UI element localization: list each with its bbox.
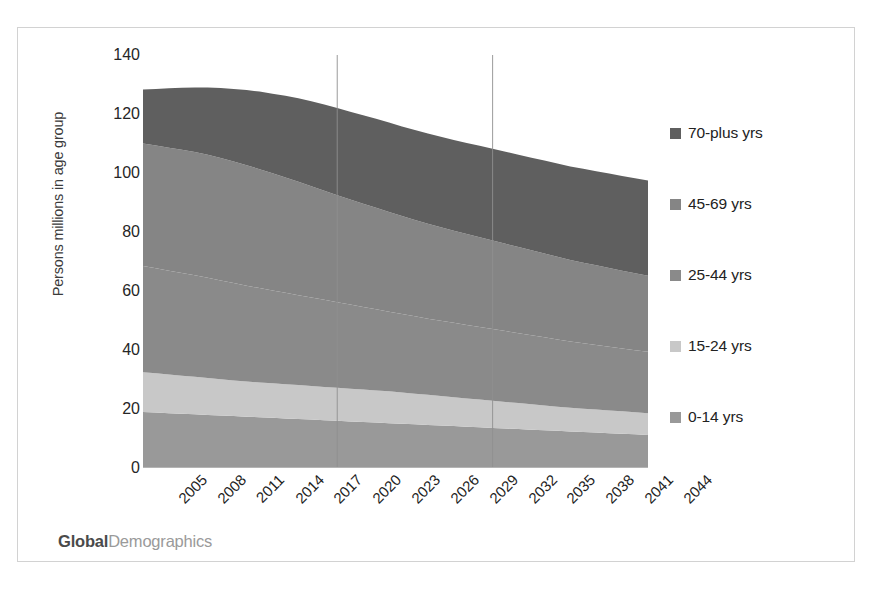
x-axis-tick: 2026 bbox=[447, 471, 483, 507]
y-axis-tick-labels: 020406080100120140 bbox=[78, 28, 140, 563]
legend-label: 25-44 yrs bbox=[688, 266, 752, 284]
legend-label: 70-plus yrs bbox=[688, 124, 763, 142]
x-axis-tick: 2023 bbox=[408, 471, 444, 507]
x-axis-tick: 2035 bbox=[563, 471, 599, 507]
y-axis-tick: 140 bbox=[113, 47, 140, 63]
y-axis-tick: 120 bbox=[113, 106, 140, 122]
x-axis-tick: 2020 bbox=[369, 471, 405, 507]
brand-primary: Global bbox=[58, 532, 108, 550]
x-axis-tick: 2044 bbox=[680, 471, 716, 507]
x-axis-tick-labels: 2005200820112014201720202023202620292032… bbox=[143, 471, 663, 551]
legend-label: 45-69 yrs bbox=[688, 195, 752, 213]
x-axis-tick: 2011 bbox=[252, 471, 287, 506]
x-axis-tick: 2041 bbox=[641, 471, 677, 507]
brand-watermark: GlobalDemographics bbox=[58, 532, 212, 551]
legend-item[interactable]: 25-44 yrs bbox=[670, 266, 752, 284]
legend-swatch-icon bbox=[670, 341, 681, 352]
legend-item[interactable]: 15-24 yrs bbox=[670, 337, 752, 355]
brand-secondary: Demographics bbox=[108, 532, 212, 550]
legend-swatch-icon bbox=[670, 270, 681, 281]
legend-item[interactable]: 45-69 yrs bbox=[670, 195, 752, 213]
y-axis-tick: 80 bbox=[122, 224, 140, 240]
x-axis-tick: 2032 bbox=[524, 471, 560, 507]
y-axis-title: Persons millions in age group bbox=[50, 84, 66, 324]
y-axis-tick: 20 bbox=[122, 401, 140, 417]
x-axis-tick: 2008 bbox=[214, 471, 250, 507]
legend-swatch-icon bbox=[670, 412, 681, 423]
y-axis-tick: 0 bbox=[131, 460, 140, 476]
legend-item[interactable]: 0-14 yrs bbox=[670, 408, 743, 426]
x-axis-tick: 2029 bbox=[486, 471, 522, 507]
y-axis-tick: 100 bbox=[113, 165, 140, 181]
plot-area bbox=[143, 55, 648, 468]
legend-label: 15-24 yrs bbox=[688, 337, 752, 355]
legend-item[interactable]: 70-plus yrs bbox=[670, 124, 763, 142]
x-axis-tick: 2005 bbox=[175, 471, 211, 507]
y-axis-tick: 40 bbox=[122, 342, 140, 358]
x-axis-tick: 2014 bbox=[291, 471, 327, 507]
legend-swatch-icon bbox=[670, 128, 681, 139]
chart-figure: Persons millions in age group 0204060801… bbox=[17, 27, 855, 562]
x-axis-tick: 2038 bbox=[602, 471, 638, 507]
stacked-area-svg bbox=[143, 55, 648, 468]
legend-swatch-icon bbox=[670, 199, 681, 210]
legend-label: 0-14 yrs bbox=[688, 408, 743, 426]
y-axis-tick: 60 bbox=[122, 283, 140, 299]
x-axis-tick: 2017 bbox=[330, 471, 366, 507]
